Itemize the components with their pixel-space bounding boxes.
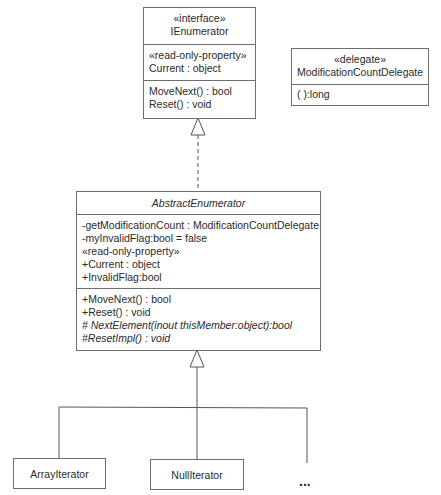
abstract-enumerator-attr: -getModificationCount : ModificationCoun…: [82, 219, 315, 232]
abstract-enumerator-attributes: -getModificationCount : ModificationCoun…: [77, 215, 320, 289]
ienumerator-header: «interface» IEnumerator: [144, 8, 255, 45]
nulliterator-name: NullIterator: [171, 469, 222, 481]
ienumerator-class[interactable]: «interface» IEnumerator «read-only-prope…: [143, 7, 256, 119]
abstract-enumerator-name: AbstractEnumerator: [82, 197, 315, 210]
arrayiterator-name: ArrayIterator: [30, 468, 88, 480]
abstract-enumerator-class[interactable]: AbstractEnumerator -getModificationCount…: [76, 191, 321, 351]
abstract-enumerator-attr: +InvalidFlag:bool: [82, 271, 315, 284]
generalization-branch-line: [59, 407, 307, 408]
abstract-enumerator-attr: +Current : object: [82, 258, 315, 271]
abstract-enumerator-attr: «read-only-property»: [82, 245, 315, 258]
delegate-op: ( ):long: [297, 88, 423, 101]
delegate-name: ModificationCountDelegate: [297, 66, 423, 79]
ienumerator-operations: MoveNext() : bool Reset() : void: [144, 81, 255, 113]
ienumerator-attr: «read-only-property»: [149, 49, 250, 62]
delegate-stereotype: «delegate»: [297, 53, 423, 66]
more-subclasses-indicator: ...: [299, 473, 311, 489]
ienumerator-stereotype: «interface»: [149, 12, 250, 25]
ienumerator-attr: Current : object: [149, 62, 250, 75]
ienumerator-op: MoveNext() : bool: [149, 85, 250, 98]
abstract-enumerator-operations: +MoveNext() : bool +Reset() : void # Nex…: [77, 289, 320, 347]
abstract-enumerator-op: #ResetImpl() : void: [82, 332, 315, 345]
ienumerator-name: IEnumerator: [149, 25, 250, 38]
ienumerator-op: Reset() : void: [149, 98, 250, 111]
realization-arrowhead-icon: [191, 118, 205, 135]
ienumerator-attributes: «read-only-property» Current : object: [144, 45, 255, 81]
nulliterator-class[interactable]: NullIterator: [150, 459, 244, 490]
abstract-enumerator-attr: -myInvalidFlag:bool = false: [82, 232, 315, 245]
arrayiterator-class[interactable]: ArrayIterator: [13, 458, 106, 489]
delegate-operations: ( ):long: [292, 85, 428, 103]
abstract-enumerator-op: # NextElement(inout thisMember:object):b…: [82, 319, 315, 332]
generalization-arrowhead-icon: [190, 350, 204, 367]
abstract-enumerator-op: +MoveNext() : bool: [82, 293, 315, 306]
delegate-class[interactable]: «delegate» ModificationCountDelegate ( )…: [291, 48, 429, 106]
abstract-enumerator-op: +Reset() : void: [82, 306, 315, 319]
delegate-header: «delegate» ModificationCountDelegate: [292, 49, 428, 85]
abstract-enumerator-header: AbstractEnumerator: [77, 192, 320, 215]
